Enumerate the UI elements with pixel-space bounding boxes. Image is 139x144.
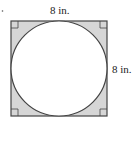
inscribed-circle — [11, 21, 107, 116]
bullet-dot — [2, 10, 4, 12]
top-side-label: 8 in. — [50, 4, 70, 16]
right-side-label: 8 in. — [112, 63, 132, 75]
